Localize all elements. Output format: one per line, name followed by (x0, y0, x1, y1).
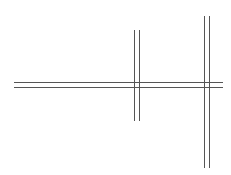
right-vertical-double-line-stroke-2 (209, 16, 210, 168)
middle-vertical-double-line-stroke-2 (139, 30, 140, 121)
right-vertical-double-line-stroke-1 (204, 16, 205, 168)
middle-vertical-double-line-stroke-1 (134, 30, 135, 121)
horizontal-double-line-stroke-1 (14, 82, 223, 83)
horizontal-double-line-stroke-2 (14, 87, 223, 88)
diagram-canvas (0, 0, 231, 175)
